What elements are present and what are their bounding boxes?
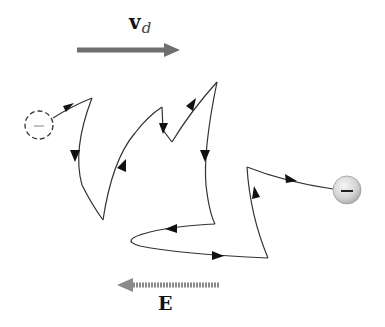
final-electron-position	[333, 176, 361, 204]
electric-field-label: E	[158, 292, 172, 314]
path-direction-arrows	[63, 98, 297, 260]
drift-velocity-arrow	[77, 43, 180, 57]
electric-field-arrow	[117, 278, 219, 292]
drift-velocity-label: vd	[129, 10, 151, 34]
drift-diagram	[0, 0, 385, 327]
initial-electron-position	[25, 111, 53, 139]
drift-velocity-subscript: d	[142, 19, 152, 37]
